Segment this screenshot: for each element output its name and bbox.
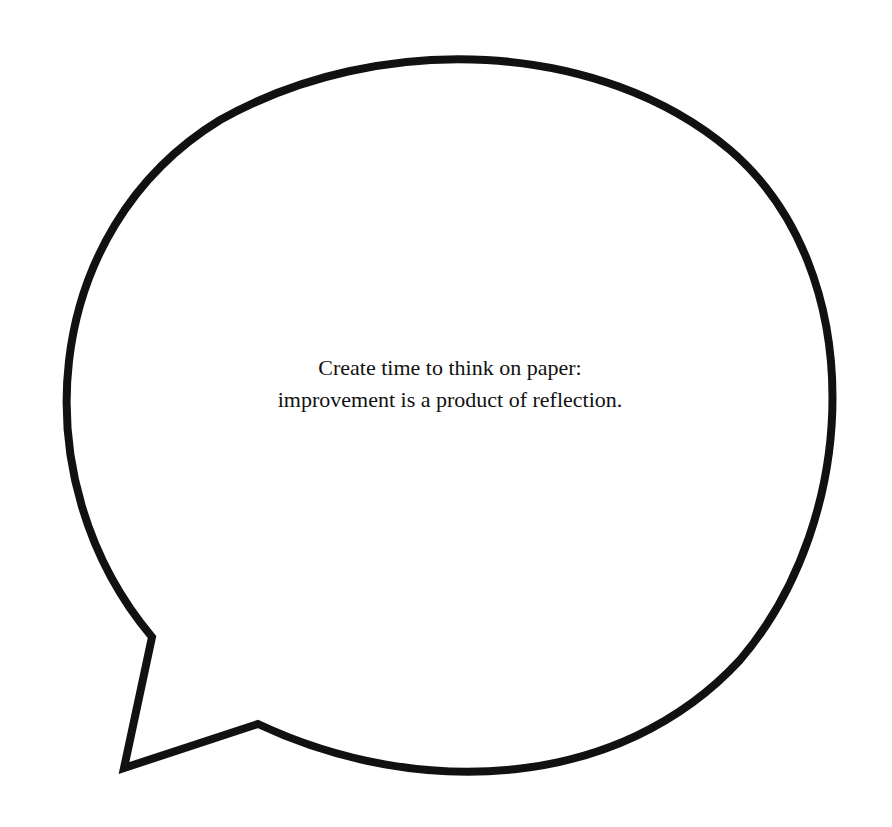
quote-line-2: improvement is a product of reflection.	[150, 384, 750, 416]
speech-bubble-text: Create time to think on paper: improveme…	[150, 352, 750, 416]
quote-line-1: Create time to think on paper:	[150, 352, 750, 384]
